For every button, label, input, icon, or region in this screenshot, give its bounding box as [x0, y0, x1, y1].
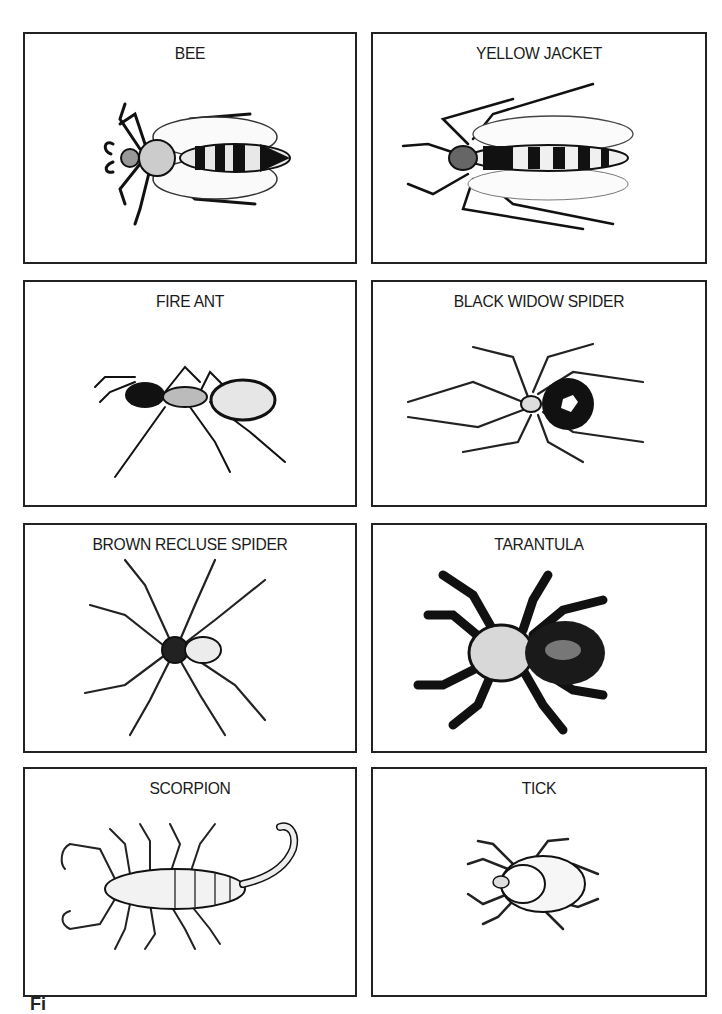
black-widow-spider-illustration-icon: [373, 282, 705, 505]
panel-tick: TICK: [371, 767, 707, 997]
figure-caption: Fi: [30, 994, 46, 1014]
bee-illustration-icon: [25, 34, 355, 262]
panel-brown-recluse-spider: BROWN RECLUSE SPIDER: [23, 523, 357, 753]
tarantula-illustration-icon: [373, 525, 705, 751]
panel-yellow-jacket: YELLOW JACKET: [371, 32, 707, 264]
brown-recluse-spider-illustration-icon: [25, 525, 355, 751]
tick-illustration-icon: [373, 769, 705, 995]
panel-scorpion: SCORPION: [23, 767, 357, 997]
fire-ant-illustration-icon: [25, 282, 355, 505]
panel-black-widow-spider: BLACK WIDOW SPIDER: [371, 280, 707, 507]
panel-bee: BEE: [23, 32, 357, 264]
yellow-jacket-illustration-icon: [373, 34, 705, 262]
panel-tarantula: TARANTULA: [371, 523, 707, 753]
scorpion-illustration-icon: [25, 769, 355, 995]
panel-fire-ant: FIRE ANT: [23, 280, 357, 507]
